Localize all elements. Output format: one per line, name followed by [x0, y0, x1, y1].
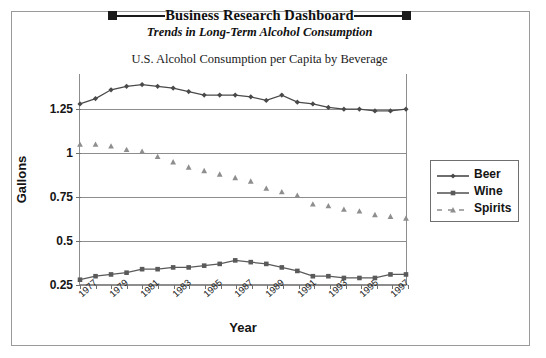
- data-point: [311, 274, 316, 279]
- data-point: [78, 277, 83, 282]
- data-point: [263, 185, 269, 190]
- series-line: [80, 144, 406, 218]
- data-point: [342, 276, 347, 281]
- legend-item-spirits[interactable]: Spirits: [436, 199, 511, 216]
- x-tick-mark: [408, 285, 409, 289]
- data-point: [295, 269, 300, 274]
- data-point: [140, 82, 145, 87]
- chart-legend: BeerWineSpirits: [430, 160, 519, 222]
- data-point: [170, 159, 176, 164]
- data-point: [201, 168, 207, 173]
- data-point: [264, 262, 269, 267]
- data-point: [217, 171, 223, 176]
- x-tick-mark: [377, 285, 378, 289]
- data-point: [93, 96, 98, 101]
- x-tick-mark: [252, 285, 253, 289]
- data-point: [186, 265, 191, 270]
- y-tick-label: 0.5: [56, 234, 80, 248]
- legend-key-diamond-icon: [436, 168, 470, 180]
- data-point: [124, 147, 130, 152]
- series-beer: [77, 82, 408, 114]
- data-point: [186, 164, 192, 169]
- data-point: [310, 101, 315, 106]
- data-point: [326, 274, 331, 279]
- data-point: [248, 178, 254, 183]
- data-point: [357, 208, 363, 213]
- x-tick-mark: [346, 285, 347, 289]
- x-tick-mark: [158, 285, 159, 289]
- data-point: [108, 143, 114, 148]
- data-point: [357, 107, 362, 112]
- data-point: [124, 84, 129, 89]
- data-point: [388, 272, 393, 277]
- legend-label: Wine: [474, 184, 503, 198]
- data-point: [357, 276, 362, 281]
- legend-item-beer[interactable]: Beer: [436, 165, 511, 182]
- dashboard-title: Business Research Dashboard: [165, 7, 354, 24]
- legend-item-wine[interactable]: Wine: [436, 182, 511, 199]
- data-point: [202, 93, 207, 98]
- y-axis-title: Gallons: [14, 74, 32, 285]
- data-point: [341, 107, 346, 112]
- data-point: [341, 206, 347, 211]
- data-point: [373, 276, 378, 281]
- header-title-row: Business Research Dashboard: [0, 7, 519, 24]
- data-point: [155, 154, 161, 159]
- data-point: [295, 100, 300, 105]
- x-tick-mark: [283, 285, 284, 289]
- square-marker-icon-left: [108, 11, 117, 20]
- data-point: [326, 105, 331, 110]
- data-point: [279, 93, 284, 98]
- x-tick-mark: [189, 285, 190, 289]
- x-tick-mark: [96, 285, 97, 289]
- data-point: [294, 192, 300, 197]
- x-tick-mark: [127, 285, 128, 289]
- series-line: [80, 260, 406, 279]
- legend-label: Spirits: [474, 201, 511, 215]
- x-tick-mark: [314, 285, 315, 289]
- data-point: [155, 84, 160, 89]
- data-point: [93, 274, 98, 279]
- series-spirits: [77, 141, 409, 220]
- series-lines: [80, 74, 406, 285]
- data-point: [217, 262, 222, 267]
- x-tick-mark: [221, 285, 222, 289]
- data-point: [202, 263, 207, 268]
- data-point: [155, 267, 160, 272]
- y-tick-label: 1.25: [50, 102, 80, 116]
- data-point: [217, 93, 222, 98]
- y-tick-label: 0.75: [50, 190, 80, 204]
- series-wine: [78, 258, 409, 282]
- data-point: [372, 108, 377, 113]
- data-point: [232, 175, 238, 180]
- data-point: [171, 265, 176, 270]
- legend-key-triangle-icon: [436, 202, 470, 214]
- data-point: [280, 265, 285, 270]
- dashboard-subtitle: Trends in Long-Term Alcohol Consumption: [0, 25, 519, 40]
- data-point: [108, 87, 113, 92]
- data-point: [388, 108, 393, 113]
- data-point: [93, 141, 99, 146]
- data-point: [124, 270, 129, 275]
- data-point: [310, 201, 316, 206]
- data-point: [279, 189, 285, 194]
- data-point: [404, 272, 409, 277]
- plot-frame: 0.250.50.7511.25 19771979198119831985198…: [79, 74, 407, 285]
- legend-key-square-icon: [436, 185, 470, 197]
- chart-title: U.S. Alcohol Consumption per Capita by B…: [0, 52, 519, 67]
- data-point: [388, 214, 394, 219]
- data-point: [109, 272, 114, 277]
- data-point: [248, 94, 253, 99]
- data-point: [186, 89, 191, 94]
- data-point: [264, 98, 269, 103]
- data-point: [140, 267, 145, 272]
- dashboard-header: Business Research Dashboard Trends in Lo…: [0, 7, 519, 40]
- data-point: [171, 85, 176, 90]
- chart-plot-area: 0.250.50.7511.25 19771979198119831985198…: [79, 74, 407, 285]
- data-point: [233, 93, 238, 98]
- data-point: [325, 203, 331, 208]
- data-point: [233, 258, 238, 263]
- data-point: [248, 260, 253, 265]
- header-rule-left: [117, 15, 165, 17]
- header-rule-right: [354, 15, 402, 17]
